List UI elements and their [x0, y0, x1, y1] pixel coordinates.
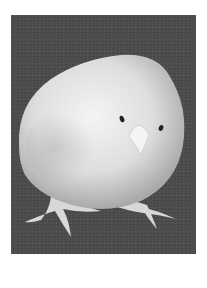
chick-illustration	[11, 15, 196, 254]
photo-frame	[11, 15, 196, 254]
figure-caption	[20, 278, 190, 288]
